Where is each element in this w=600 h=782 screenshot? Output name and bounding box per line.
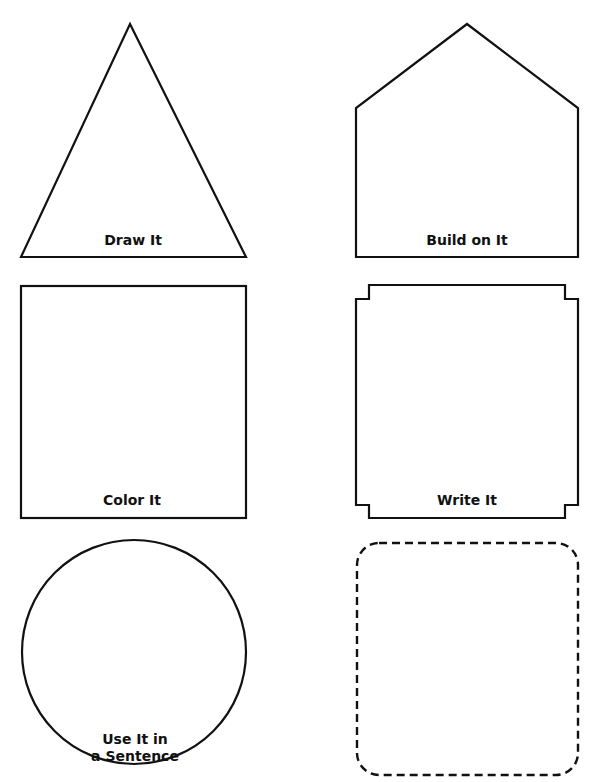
color-it-square <box>21 286 246 518</box>
write-it-label: Write It <box>437 492 497 509</box>
build-on-it-house <box>356 24 578 257</box>
build-on-it-label: Build on It <box>426 232 508 249</box>
use-it-in-a-sentence-label-line1: Use It in <box>102 731 168 748</box>
worksheet-canvas <box>0 0 600 782</box>
blank-dashed-box <box>357 543 578 775</box>
write-it-notched-box <box>356 285 578 518</box>
use-it-in-a-sentence-label-line2: a Sentence <box>91 748 179 765</box>
color-it-label: Color It <box>103 492 161 509</box>
draw-it-triangle <box>21 24 246 257</box>
draw-it-label: Draw It <box>104 232 162 249</box>
